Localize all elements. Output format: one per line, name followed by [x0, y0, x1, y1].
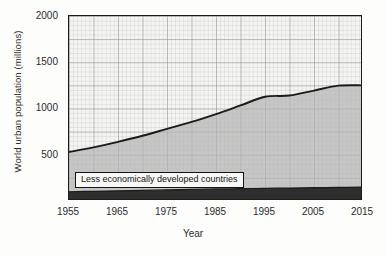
x-tick-label: 1995: [242, 206, 286, 217]
plot-area: Less economically developed countries Mo…: [68, 15, 362, 200]
x-tick-label: 1965: [95, 206, 139, 217]
x-tick-label: 2005: [291, 206, 335, 217]
x-tick-label: 1975: [144, 206, 188, 217]
legend-item-less-developed: Less economically developed countries: [75, 172, 244, 188]
y-tick-label: 2000: [14, 10, 58, 21]
x-axis-title: Year: [0, 228, 386, 239]
y-tick-label: 1000: [14, 102, 58, 113]
x-tick-label: 1985: [193, 206, 237, 217]
y-tick-label: 500: [14, 149, 58, 160]
x-tick-label: 1955: [46, 206, 90, 217]
y-tick-label: 1500: [14, 56, 58, 67]
chart-figure: World urban population (millions) 2000 1…: [0, 0, 386, 255]
legend-label-less: Less economically developed countries: [81, 174, 238, 184]
x-tick-label: 2015: [340, 206, 384, 217]
